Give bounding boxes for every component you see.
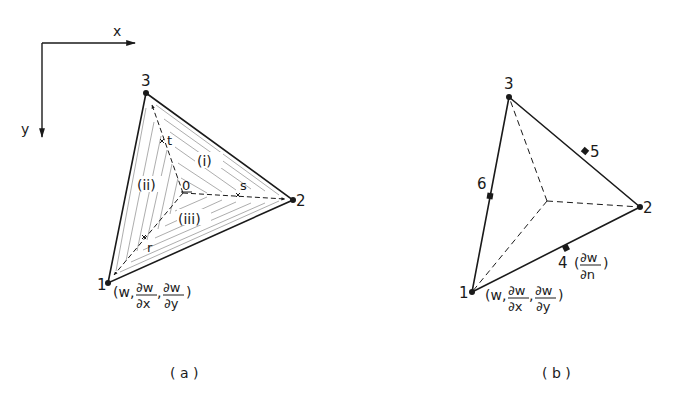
hatch-region-i (156, 105, 279, 195)
dashed-line-to-2 (183, 193, 285, 199)
dof-close-b: ) (558, 287, 563, 303)
node-1-b (469, 289, 475, 295)
dof4-close: ) (603, 255, 608, 271)
centroid-label: 0 (182, 178, 190, 193)
dof-open-b: (w, (485, 287, 506, 303)
node-1-label-b: 1 (459, 284, 469, 302)
caption-a: ( a ) (170, 365, 198, 381)
dwdy-denominator: ∂y (164, 296, 179, 311)
node-2-label-b: 2 (643, 199, 653, 217)
node-5-b (581, 147, 589, 155)
dwdy-numerator-b: ∂w (535, 283, 553, 298)
node-6-label-b: 6 (477, 175, 487, 193)
dof-sep: , (157, 284, 161, 300)
node-3-label-b: 3 (504, 75, 514, 93)
dwdn-numerator: ∂w (580, 250, 598, 265)
node-1-label-a: 1 (97, 276, 107, 294)
subregion-i-label: (i) (197, 153, 212, 169)
node-3-b (506, 94, 512, 100)
dwdx-numerator: ∂w (136, 280, 154, 295)
dof-sep-b: , (529, 287, 533, 303)
figure-b: 3 2 1 5 6 4 ( ∂w ∂n ) (w, ∂w ∂x , ∂w ∂y … (459, 75, 653, 381)
dwdx-denominator-b: ∂x (508, 299, 523, 314)
s-label: s (240, 178, 247, 193)
figure-a: 3 2 1 0 t s r (i) (ii) (iii) (w, ∂w ∂x ,… (97, 72, 306, 381)
dof-close: ) (186, 284, 191, 300)
node-3-label-a: 3 (141, 72, 151, 90)
element-boundary-a (108, 93, 293, 283)
caption-b: ( b ) (542, 365, 571, 381)
hatch-region-iii (120, 197, 279, 272)
dwdx-denominator: ∂x (136, 296, 151, 311)
t-label: t (167, 133, 172, 148)
y-axis-label: y (21, 121, 29, 137)
node-1-dof-a: (w, ∂w ∂x , ∂w ∂y ) (113, 280, 191, 311)
subregion-iii-label: (iii) (178, 211, 201, 227)
node-2-label-a: 2 (296, 192, 306, 210)
node-6-b (487, 193, 494, 200)
node-3-a (143, 90, 149, 96)
dof-open: (w, (113, 284, 134, 300)
internal-dashed-lines-b (472, 97, 640, 292)
dof4-open: ( (574, 255, 579, 271)
node-1-dof-b: (w, ∂w ∂x , ∂w ∂y ) (485, 283, 563, 314)
s-mark (236, 193, 240, 197)
node-5-label-b: 5 (590, 143, 600, 161)
global-axes: x y (21, 23, 135, 137)
dwdy-denominator-b: ∂y (536, 299, 551, 314)
subregion-ii-label: (ii) (137, 177, 156, 193)
element-boundary-b (472, 97, 640, 292)
x-axis-label: x (113, 23, 121, 39)
dwdn-denominator: ∂n (580, 267, 595, 282)
t-mark (160, 139, 164, 143)
r-label: r (147, 240, 153, 255)
dwdy-numerator: ∂w (163, 280, 181, 295)
node-4-label-b: 4 (558, 254, 568, 272)
diagram-canvas: x y (0, 0, 693, 399)
node-4-dof-b: ( ∂w ∂n ) (574, 250, 608, 282)
dwdx-numerator-b: ∂w (508, 283, 526, 298)
